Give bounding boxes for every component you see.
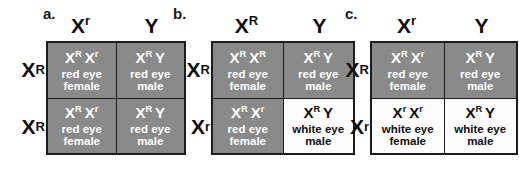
row-header-a-1: XR bbox=[6, 98, 46, 155]
row-headers-c: XR Xr bbox=[329, 41, 370, 155]
punnett-cell-c-0: XRXr red eyefemale bbox=[372, 43, 444, 98]
punnett-cell-c-1: XRY red eyemale bbox=[445, 43, 517, 98]
genotype-c-1: XRY bbox=[465, 49, 495, 66]
panel-letter-c: c. bbox=[345, 5, 358, 22]
genotype-a-2: XRXr bbox=[65, 104, 98, 121]
genotype-c-3: XRY bbox=[465, 104, 495, 121]
phenotype-c-2: white eyefemale bbox=[382, 123, 434, 147]
column-header-c-1: Y bbox=[444, 14, 519, 38]
row-header-b-0: XR bbox=[171, 41, 211, 98]
punnett-grid-c: XRXr red eyefemale XRY red eyemale XrXr … bbox=[370, 41, 518, 155]
phenotype-a-2: red eyefemale bbox=[62, 123, 102, 147]
punnett-panel-a: a. Xr Y XR XR XRXr red eyefemale XRY red… bbox=[0, 0, 163, 172]
punnett-cell-b-0: XRXR red eyefemale bbox=[213, 43, 283, 98]
genotype-a-1: XRY bbox=[135, 49, 165, 66]
punnett-cell-a-0: XRXr red eyefemale bbox=[48, 43, 116, 98]
row-headers-b: XR Xr bbox=[171, 41, 211, 155]
column-header-a-0: Xr bbox=[45, 14, 116, 38]
column-header-c-0: Xr bbox=[369, 14, 444, 38]
genotype-a-0: XRXr bbox=[65, 49, 98, 66]
row-header-b-1: Xr bbox=[171, 98, 211, 155]
row-header-a-0: XR bbox=[6, 41, 46, 98]
phenotype-b-2: red eyefemale bbox=[228, 123, 268, 147]
genotype-a-3: XRY bbox=[135, 104, 165, 121]
panel-letter-b: b. bbox=[173, 5, 186, 22]
row-headers-a: XR XR bbox=[6, 41, 46, 155]
punnett-cell-b-2: XRXr red eyefemale bbox=[213, 99, 283, 154]
punnett-cell-c-2: XrXr white eyefemale bbox=[372, 99, 444, 154]
genotype-b-2: XRXr bbox=[231, 104, 264, 121]
column-header-b-0: XR bbox=[210, 14, 283, 38]
row-header-c-0: XR bbox=[329, 41, 370, 98]
genotype-b-0: XRXR bbox=[230, 49, 266, 66]
phenotype-c-1: red eyemale bbox=[460, 68, 500, 92]
phenotype-a-0: red eyefemale bbox=[62, 68, 102, 92]
genotype-c-2: XrXr bbox=[393, 104, 423, 121]
column-headers-c: Xr Y bbox=[369, 14, 519, 38]
phenotype-c-3: white eyemale bbox=[454, 123, 506, 147]
row-header-c-1: Xr bbox=[329, 98, 370, 155]
punnett-panel-c: c. Xr Y XR Xr XRXr red eyefemale XRY red… bbox=[323, 0, 501, 172]
punnett-cell-a-2: XRXr red eyefemale bbox=[48, 99, 116, 154]
punnett-cell-c-3: XRY white eyemale bbox=[445, 99, 517, 154]
punnett-panel-b: b. XR Y XR Xr XRXR red eyefemale XRY red… bbox=[163, 0, 323, 172]
genotype-c-0: XRXr bbox=[391, 49, 424, 66]
phenotype-c-0: red eyefemale bbox=[388, 68, 428, 92]
phenotype-b-0: red eyefemale bbox=[228, 68, 268, 92]
